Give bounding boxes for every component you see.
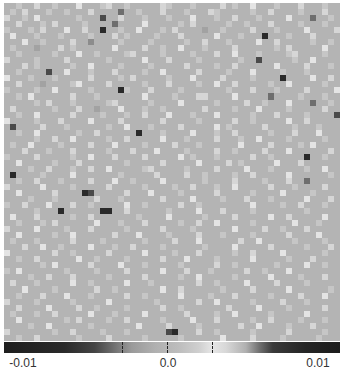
heatmap-cell xyxy=(334,335,340,341)
colorbar-tick xyxy=(122,342,123,353)
colorbar-label-max: 0.01 xyxy=(306,356,329,370)
colorbar-label-zero: 0.0 xyxy=(160,356,177,370)
colorbar-tick xyxy=(212,342,213,353)
colorbar-label-min: -0.01 xyxy=(9,356,36,370)
heatmap-grid xyxy=(4,3,340,341)
colorbar-tick xyxy=(167,342,168,353)
colorbar xyxy=(4,342,340,353)
